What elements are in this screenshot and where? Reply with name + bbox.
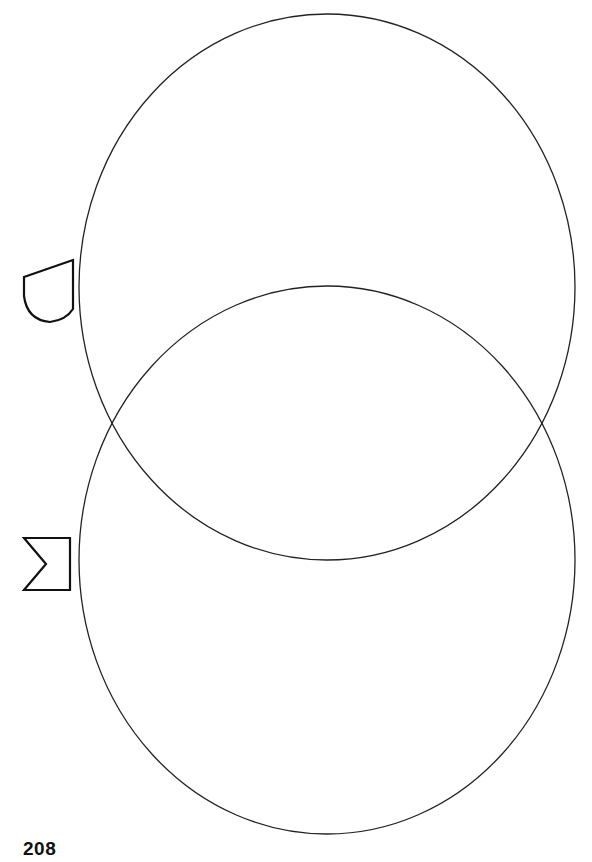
notched-flag-shape-icon bbox=[24, 538, 70, 590]
half-rounded-shape-icon bbox=[24, 260, 73, 322]
top-circle bbox=[79, 14, 575, 560]
page-number: 208 bbox=[23, 838, 56, 860]
venn-diagram bbox=[0, 0, 592, 862]
